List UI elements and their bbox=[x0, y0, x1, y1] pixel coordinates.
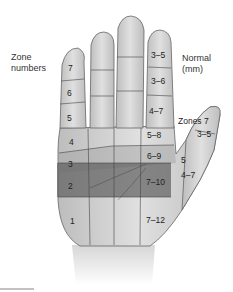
normal-value: 4–7 bbox=[149, 107, 163, 116]
middle-finger bbox=[116, 16, 144, 128]
thumb-normal-value: 4–7 bbox=[181, 171, 195, 180]
zone-title-line1: Zone bbox=[11, 52, 46, 63]
normal-title-line1: Normal bbox=[182, 53, 211, 64]
normal-value: 3–6 bbox=[151, 77, 165, 86]
thumb-normal-value: 3–5 bbox=[197, 130, 211, 139]
normal-title-line2: (mm) bbox=[182, 64, 211, 75]
zone-number: 4 bbox=[69, 138, 74, 147]
normal-value: 7–12 bbox=[146, 216, 165, 225]
wrist bbox=[72, 245, 155, 285]
zone-numbers-title: Zone numbers bbox=[11, 52, 46, 75]
zone-number: 6 bbox=[67, 89, 72, 98]
ring-finger bbox=[90, 32, 114, 128]
zone-number: 5 bbox=[67, 114, 72, 123]
zone-number: 1 bbox=[70, 217, 75, 226]
zone-number: 7 bbox=[68, 64, 73, 73]
little-finger bbox=[60, 48, 86, 128]
zone-number: 2 bbox=[68, 182, 73, 191]
normal-value: 6–9 bbox=[147, 152, 161, 161]
normal-value: 3–5 bbox=[151, 51, 165, 60]
zone-number: 3 bbox=[68, 160, 73, 169]
hand-diagram bbox=[0, 0, 233, 292]
thumb-zones-title: Zones 7 bbox=[178, 117, 209, 126]
normal-value: 7–10 bbox=[146, 178, 165, 187]
thumb-zone-number: 5 bbox=[181, 156, 186, 165]
normal-mm-title: Normal (mm) bbox=[182, 53, 211, 76]
normal-value: 5–8 bbox=[147, 131, 161, 140]
zone-title-line2: numbers bbox=[11, 63, 46, 74]
